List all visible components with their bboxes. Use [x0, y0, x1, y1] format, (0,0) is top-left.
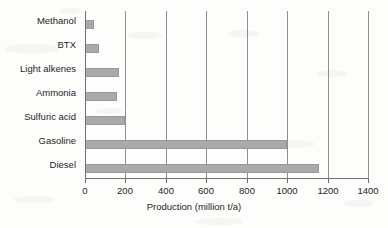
y-label-gasoline: Gasoline: [0, 136, 76, 146]
x-tick-800: [247, 179, 248, 183]
y-label-methanol: Methanol: [0, 16, 76, 26]
gridline-400: [166, 11, 167, 178]
bar-sulfuric-acid: [85, 116, 125, 125]
y-label-btx: BTX: [0, 40, 76, 50]
bar-gasoline: [85, 140, 287, 149]
x-tick-label-200: 200: [105, 185, 145, 196]
gridline-1000: [287, 11, 288, 178]
x-tick-label-0: 0: [65, 185, 105, 196]
bar-light-alkenes: [85, 68, 119, 77]
x-tick-label-1400: 1400: [348, 185, 388, 196]
x-tick-label-400: 400: [146, 185, 186, 196]
x-tick-label-1200: 1200: [308, 185, 348, 196]
x-tick-400: [166, 179, 167, 183]
x-tick-600: [206, 179, 207, 183]
gridline-800: [247, 11, 248, 178]
x-tick-label-1000: 1000: [267, 185, 307, 196]
x-tick-1400: [368, 179, 369, 183]
plot-area: [85, 11, 368, 178]
y-label-light-alkenes: Light alkenes: [0, 64, 76, 74]
gridline-200: [125, 11, 126, 178]
chart-screenshot: Methanol BTX Light alkenes Ammonia Sulfu…: [0, 0, 388, 228]
x-tick-label-600: 600: [186, 185, 226, 196]
y-label-sulfuric-acid: Sulfuric acid: [0, 112, 76, 122]
x-tick-200: [125, 179, 126, 183]
bar-diesel: [85, 164, 319, 173]
x-tick-1200: [328, 179, 329, 183]
bar-btx: [85, 44, 99, 53]
bar-ammonia: [85, 92, 117, 101]
scan-artifact: [60, 8, 80, 14]
y-axis-line: [85, 11, 86, 179]
y-label-ammonia: Ammonia: [0, 88, 76, 98]
bar-methanol: [85, 20, 94, 29]
scan-artifact: [196, 218, 242, 225]
y-label-diesel: Diesel: [0, 160, 76, 170]
x-axis-line: [85, 178, 369, 179]
x-tick-0: [85, 179, 86, 183]
gridline-1400: [368, 11, 369, 178]
x-axis-title: Production (million t/a): [0, 201, 388, 212]
x-tick-1000: [287, 179, 288, 183]
gridline-1200: [328, 11, 329, 178]
x-tick-label-800: 800: [227, 185, 267, 196]
gridline-600: [206, 11, 207, 178]
